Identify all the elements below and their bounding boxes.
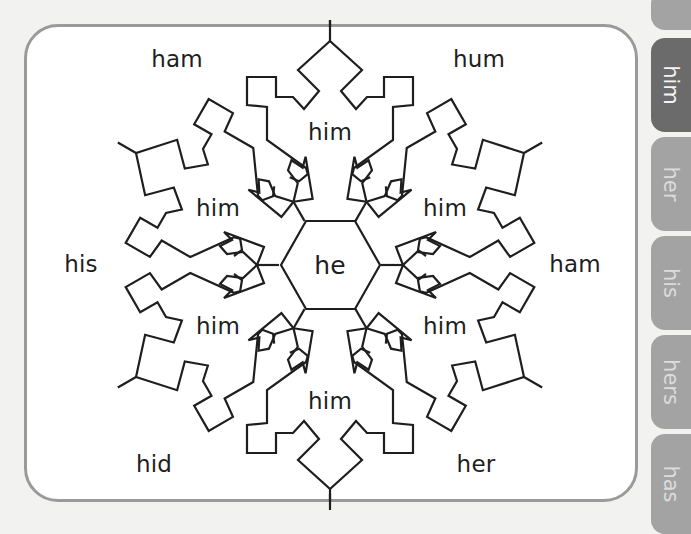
inner-word-top: him [308, 119, 352, 145]
inner-word-upper-right: him [423, 195, 467, 221]
outer-word-bottom-left: hid [136, 451, 172, 477]
inner-word-bottom: him [308, 388, 352, 414]
inner-word-upper-left: him [196, 195, 240, 221]
outer-word-right: ham [549, 251, 601, 277]
inner-word-lower-right: him [423, 313, 467, 339]
outer-word-top-left: ham [151, 46, 203, 72]
outer-word-bottom-right: her [457, 451, 496, 477]
outer-word-top-right: hum [453, 46, 505, 72]
center-word: he [314, 251, 346, 280]
inner-word-lower-left: him [196, 313, 240, 339]
outer-word-left: his [64, 251, 98, 277]
